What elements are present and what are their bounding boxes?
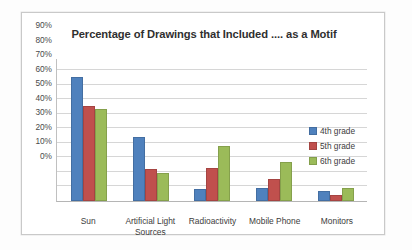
legend-swatch-icon — [309, 127, 317, 135]
legend-item-label: 4th grade — [320, 126, 355, 136]
legend-item-label: 6th grade — [320, 156, 355, 166]
bar[interactable] — [318, 191, 330, 201]
x-axis: SunArtificial Light SourcesRadioactivity… — [57, 216, 368, 237]
bar[interactable] — [256, 188, 268, 201]
chart-title: Percentage of Drawings that Included ...… — [40, 27, 368, 41]
chart-object-frame[interactable]: Percentage of Drawings that Included ...… — [21, 12, 385, 235]
y-axis-tick-label: 0% — [40, 152, 52, 160]
bar-group — [182, 70, 244, 201]
bar-group — [120, 70, 182, 201]
legend-item[interactable]: 5th grade — [309, 138, 371, 153]
bar[interactable] — [342, 188, 354, 201]
bar[interactable] — [330, 195, 342, 201]
y-axis-tick-label: 10% — [35, 137, 52, 145]
legend-swatch-icon — [309, 142, 317, 150]
legend-item-label: 5th grade — [320, 141, 355, 151]
bar[interactable] — [194, 189, 206, 201]
bar[interactable] — [83, 106, 95, 201]
screenshot-root: Percentage of Drawings that Included ...… — [0, 0, 412, 250]
y-axis-tick-label: 60% — [35, 65, 52, 73]
legend-item[interactable]: 6th grade — [309, 153, 371, 168]
legend-item[interactable]: 4th grade — [309, 123, 371, 138]
y-axis-tick-label: 20% — [35, 123, 52, 131]
bar[interactable] — [268, 179, 280, 201]
bar[interactable] — [145, 169, 157, 201]
x-axis-category-label: Mobile Phone — [244, 216, 306, 237]
x-axis-category-label: Artificial Light Sources — [119, 216, 181, 237]
x-axis-category-label: Monitors — [306, 216, 368, 237]
bar[interactable] — [133, 137, 145, 201]
y-axis-tick-label: 50% — [35, 79, 52, 87]
x-axis-category-label: Radioactivity — [181, 216, 243, 237]
bar[interactable] — [206, 168, 218, 201]
chart-legend[interactable]: 4th grade5th grade6th grade — [309, 123, 371, 168]
bar[interactable] — [280, 162, 292, 201]
y-axis-tick-label: 40% — [35, 94, 52, 102]
y-axis-tick-label: 30% — [35, 108, 52, 116]
y-axis: 90%80%70%60%50%40%30%20%10%0% — [22, 13, 56, 156]
bar[interactable] — [95, 109, 107, 201]
bar[interactable] — [71, 77, 83, 201]
bar[interactable] — [157, 173, 169, 201]
bar[interactable] — [218, 146, 230, 201]
bar-group — [243, 70, 305, 201]
y-axis-tick-label: 80% — [35, 36, 52, 44]
y-axis-tick-label: 70% — [35, 50, 52, 58]
y-axis-tick-label: 90% — [35, 21, 52, 29]
bar-group — [58, 70, 120, 201]
legend-swatch-icon — [309, 157, 317, 165]
x-axis-category-label: Sun — [57, 216, 119, 237]
